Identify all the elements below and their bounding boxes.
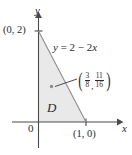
close-paren: ) (106, 70, 110, 91)
label-y-intercept: (0, 2) (3, 25, 26, 36)
equation-operator: = 2 − 2 (58, 41, 92, 53)
label-origin: 0 (28, 123, 34, 134)
axis-label-y: y (35, 5, 40, 16)
label-annotated-point: (38,1116) (77, 68, 112, 92)
open-paren: ( (78, 70, 82, 91)
fraction-y-denominator: 16 (95, 80, 105, 89)
label-x-intercept: (1, 0) (73, 129, 96, 140)
annotated-point-dot (50, 85, 53, 88)
fraction-x: 38 (84, 72, 91, 89)
fraction-y-numerator: 11 (95, 72, 104, 80)
label-region-d: D (47, 101, 56, 114)
equation-rhs-var: x (92, 41, 97, 53)
axis-label-x: x (122, 123, 127, 134)
label-line-equation: y = 2 − 2x (53, 42, 97, 53)
math-figure-region-d: y x (0, 2) (1, 0) 0 D y = 2 − 2x (38,111… (0, 0, 132, 155)
fraction-x-numerator: 3 (85, 72, 91, 80)
fraction-y: 1116 (94, 72, 105, 89)
fraction-x-denominator: 8 (85, 80, 91, 89)
